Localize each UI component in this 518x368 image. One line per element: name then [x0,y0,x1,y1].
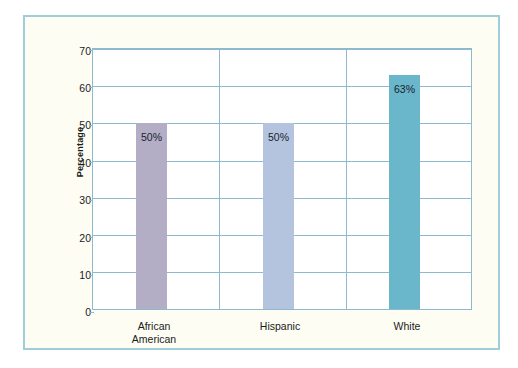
y-tick-label-10: 10 [55,269,91,281]
y-tick-label-70: 70 [55,45,91,57]
bar-hispanic[interactable]: 50% [263,123,294,309]
x-category-label-line-1: African [99,320,209,333]
bar-white[interactable]: 63% [389,75,420,309]
y-tick-label-0: 0 [55,306,91,318]
y-tick-label-40: 40 [55,157,91,169]
x-category-label-hispanic: Hispanic [225,320,335,333]
y-tick-mark-0 [89,312,94,313]
x-category-label-white: White [352,320,462,333]
bar-value-label-hispanic: 50% [263,131,294,143]
bar-value-label-african-american: 50% [136,131,167,143]
gridline-70 [93,49,471,50]
x-category-label-line-1: Hispanic [225,320,335,333]
y-tick-label-30: 30 [55,194,91,206]
y-tick-label-60: 60 [55,82,91,94]
bar-value-label-white: 63% [389,83,420,95]
x-category-label-line-1: White [352,320,462,333]
chart-figure: Percentage 70 60 50 40 30 20 10 0 Africa… [0,0,518,368]
category-separator-2 [346,49,347,309]
bar-african-american[interactable]: 50% [136,123,167,309]
category-separator-1 [219,49,220,309]
y-tick-label-50: 50 [55,119,91,131]
y-tick-label-20: 20 [55,232,91,244]
plot-area: 50% 50% 63% [92,48,472,310]
x-category-label-african-american: African American [99,320,209,346]
x-category-label-line-2: American [99,333,209,346]
gridline-0 [93,309,471,310]
